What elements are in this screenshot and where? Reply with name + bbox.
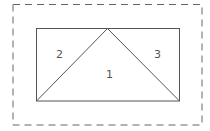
- right-diagonal: [108, 29, 180, 102]
- diagram-canvas: 2 3 1: [0, 0, 210, 131]
- outer-rectangle: [37, 29, 180, 102]
- region-label-3: 3: [154, 48, 161, 61]
- region-label-1: 1: [106, 68, 113, 81]
- left-diagonal: [37, 29, 108, 102]
- region-label-2: 2: [56, 48, 63, 61]
- dashed-boundary: [13, 5, 202, 126]
